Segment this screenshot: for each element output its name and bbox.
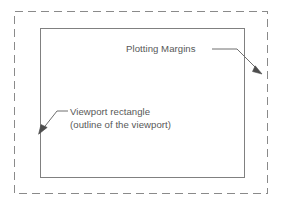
plotting-margins-arrowhead-icon bbox=[253, 66, 263, 74]
diagram-canvas: Plotting Margins Viewport rectangle (out… bbox=[0, 0, 282, 206]
plotting-margins-leader-line bbox=[212, 49, 259, 71]
plotting-margins-border bbox=[15, 12, 268, 194]
viewport-margins-diagram: Plotting Margins Viewport rectangle (out… bbox=[0, 0, 282, 206]
viewport-rectangle-label-line1: Viewport rectangle bbox=[70, 106, 150, 117]
viewport-rectangle-arrowhead-icon bbox=[39, 125, 48, 135]
plotting-margins-label: Plotting Margins bbox=[126, 43, 196, 54]
viewport-rectangle-label-line2: (outline of the viewport) bbox=[70, 119, 171, 130]
